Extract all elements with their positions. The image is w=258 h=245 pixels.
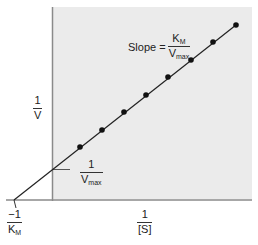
slope-label: Slope = KM Vmax xyxy=(128,33,190,61)
data-point xyxy=(233,22,239,28)
data-point xyxy=(210,39,216,45)
x-intercept-tick xyxy=(14,200,16,208)
data-point xyxy=(165,74,171,80)
x-intercept-label: −1 KM xyxy=(7,209,22,236)
data-point xyxy=(99,127,105,133)
data-point xyxy=(143,92,149,98)
y-intercept-label: 1 Vmax xyxy=(80,159,103,186)
data-point xyxy=(77,144,83,150)
x-axis-label: 1 [S] xyxy=(137,209,152,235)
y-axis-label: 1 V xyxy=(33,95,42,121)
data-point xyxy=(121,109,127,115)
